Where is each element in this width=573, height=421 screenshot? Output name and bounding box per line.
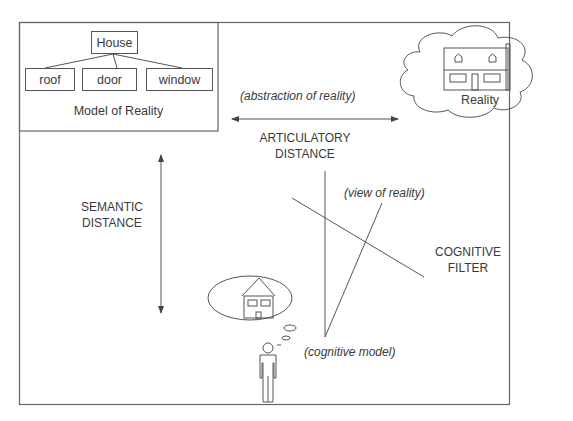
thought-bubble-dot-small [282, 336, 290, 340]
view-of-reality-annotation: (view of reality) [344, 186, 425, 200]
semantic-label-line1: SEMANTIC [70, 200, 154, 214]
reality-house-icon [444, 44, 510, 90]
tree-node-window: window [146, 68, 213, 91]
semantic-label-line2: DISTANCE [70, 216, 154, 230]
thought-bubble [208, 276, 292, 320]
tree-connectors [45, 54, 182, 68]
thought-bubble-dot-large [284, 325, 296, 331]
articulatory-label-line2: DISTANCE [250, 147, 360, 161]
person-icon [260, 343, 281, 402]
reality-label: Reality [455, 93, 505, 107]
abstraction-annotation: (abstraction of reality) [240, 89, 355, 103]
cognitive-filter-line [292, 198, 424, 277]
tree-node-door: door [82, 68, 137, 91]
cognitive-filter-label-line2: FILTER [428, 261, 508, 275]
articulatory-label-line1: ARTICULATORY [250, 131, 360, 145]
tree-node-house: House [91, 31, 138, 54]
cognitive-filter-label-line1: COGNITIVE [428, 245, 508, 259]
cognitive-model-annotation: (cognitive model) [304, 345, 395, 359]
model-of-reality-title: Model of Reality [19, 104, 218, 118]
thought-house-icon [242, 278, 275, 318]
tree-node-roof: roof [25, 68, 75, 91]
